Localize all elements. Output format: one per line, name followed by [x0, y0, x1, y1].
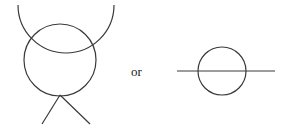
left-leg [42, 95, 60, 124]
left-figure [18, 5, 114, 124]
left-circle [24, 24, 96, 96]
right-figure [177, 47, 275, 95]
or-label: or [131, 64, 143, 79]
diagram-canvas: or [0, 0, 287, 132]
right-leg [60, 95, 90, 124]
top-arc [18, 5, 114, 53]
